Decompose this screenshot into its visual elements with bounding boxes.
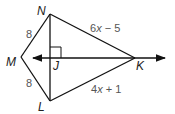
measure-NK: 6x − 5 [90, 22, 120, 34]
measure-LK: 4x + 1 [91, 83, 121, 95]
vertex-label-K: K [136, 59, 145, 73]
vertex-label-L: L [38, 100, 45, 114]
measure-ML: 8 [26, 77, 32, 89]
right-angle-marker [50, 47, 61, 58]
vertex-label-N: N [37, 4, 46, 18]
vertex-label-M: M [6, 55, 16, 69]
vertex-label-J: J [52, 59, 60, 73]
side-NK [50, 14, 135, 58]
measure-MN: 8 [26, 28, 32, 40]
kite-diagram: N M L K J 8 8 6x − 5 4x + 1 [0, 0, 175, 114]
